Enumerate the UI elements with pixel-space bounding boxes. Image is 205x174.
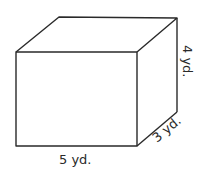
length-label: 5 yd. [59, 152, 91, 167]
prism [16, 17, 177, 146]
height-label: 4 yd. [180, 45, 195, 77]
width-label: 3 yd. [149, 113, 184, 145]
rectangular-prism-diagram: 5 yd. 3 yd. 4 yd. [0, 0, 205, 174]
front-face [16, 52, 137, 146]
top-face-edges [16, 17, 177, 52]
